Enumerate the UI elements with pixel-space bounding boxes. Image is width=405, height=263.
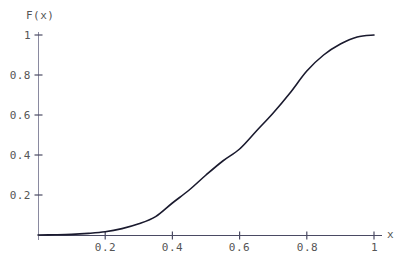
y-tick-label-1: 1 bbox=[0, 29, 31, 42]
cdf-curve bbox=[38, 35, 374, 235]
y-tick-label-0.2: 0.2 bbox=[0, 189, 31, 202]
x-axis-label: x bbox=[387, 228, 394, 241]
plot-canvas bbox=[0, 0, 405, 263]
x-tick-label-0.2: 0.2 bbox=[85, 241, 126, 254]
x-tick-label-0.8: 0.8 bbox=[287, 241, 328, 254]
y-tick-label-0.8: 0.8 bbox=[0, 69, 31, 82]
x-tick-label-0.6: 0.6 bbox=[219, 241, 260, 254]
y-tick-label-0.6: 0.6 bbox=[0, 109, 31, 122]
cdf-plot-figure: 0.2 0.4 0.6 0.8 1 0.2 0.4 0.6 0.8 1 F(x)… bbox=[0, 0, 405, 263]
x-tick-label-0.4: 0.4 bbox=[152, 241, 193, 254]
y-tick-label-0.4: 0.4 bbox=[0, 149, 31, 162]
y-axis-label: F(x) bbox=[26, 9, 55, 22]
x-tick-label-1: 1 bbox=[354, 241, 395, 254]
